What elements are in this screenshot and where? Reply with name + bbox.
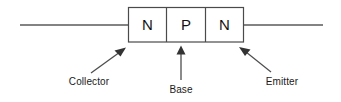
region-letter-emitter: N xyxy=(219,16,230,33)
collector-label: Collector xyxy=(69,76,110,87)
base-arrow-icon xyxy=(177,46,186,55)
npn-transistor-diagram: N P N Collector Base Emitter xyxy=(0,0,341,102)
emitter-label: Emitter xyxy=(266,76,299,87)
region-letter-base: P xyxy=(181,16,191,33)
region-letter-collector: N xyxy=(142,16,153,33)
emitter-callout-line xyxy=(246,52,271,72)
base-label: Base xyxy=(169,84,193,95)
collector-callout-line xyxy=(91,52,120,73)
diagram-canvas: N P N Collector Base Emitter xyxy=(0,0,341,102)
